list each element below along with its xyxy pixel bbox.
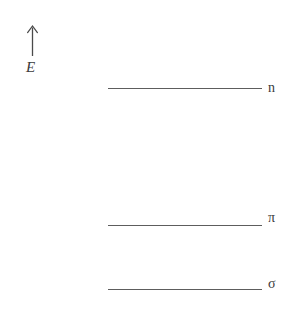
energy-level-label-pi: π [268, 211, 275, 225]
energy-level-diagram: E n π σ [0, 0, 290, 317]
up-arrow-icon [22, 22, 44, 62]
energy-level-line-n [108, 88, 262, 89]
energy-axis-label: E [26, 60, 35, 75]
energy-level-label-sigma: σ [268, 277, 276, 291]
energy-level-label-n: n [268, 81, 275, 95]
energy-level-line-pi [108, 225, 262, 226]
energy-level-line-sigma [108, 289, 262, 290]
